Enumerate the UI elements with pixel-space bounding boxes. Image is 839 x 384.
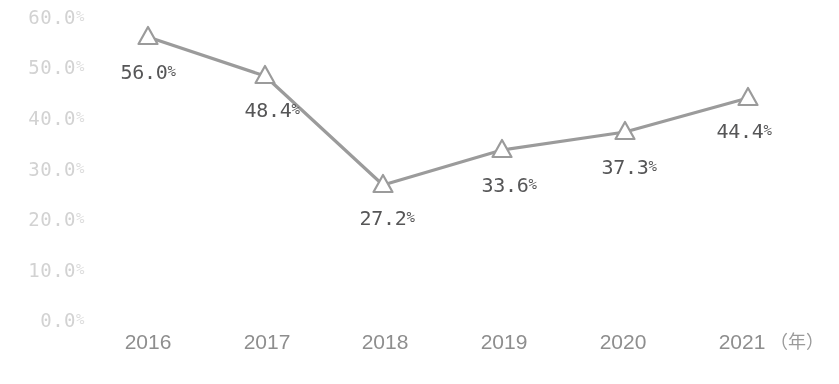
data-marker-2021 <box>739 88 758 105</box>
data-label-2017-value: 48.4 <box>244 98 291 122</box>
data-label-2019-percent: % <box>528 176 536 192</box>
plot-area <box>0 0 839 384</box>
data-label-2016: 56.0% <box>120 62 175 82</box>
data-label-2018: 27.2% <box>359 208 414 228</box>
data-label-2021: 44.4% <box>716 121 771 141</box>
x-tick-2020: 2020 <box>563 331 683 352</box>
data-marker-2016 <box>139 27 158 44</box>
x-tick-2017: 2017 <box>207 331 327 352</box>
data-label-2017: 48.4% <box>244 100 299 120</box>
data-label-2016-value: 56.0 <box>120 60 167 84</box>
x-axis-unit-label: （年） <box>770 333 824 351</box>
x-tick-2019: 2019 <box>444 331 564 352</box>
data-label-2017-percent: % <box>291 101 299 117</box>
data-label-2018-percent: % <box>406 209 414 225</box>
data-series-line <box>148 37 748 185</box>
data-label-2016-percent: % <box>167 63 175 79</box>
data-label-2020-value: 37.3 <box>601 155 648 179</box>
data-label-2021-value: 44.4 <box>716 119 763 143</box>
x-tick-2016: 2016 <box>88 331 208 352</box>
data-label-2018-value: 27.2 <box>359 206 406 230</box>
data-label-2019-value: 33.6 <box>481 173 528 197</box>
x-tick-2018: 2018 <box>325 331 445 352</box>
data-label-2020: 37.3% <box>601 157 656 177</box>
data-label-2020-percent: % <box>648 158 656 174</box>
line-chart: 60.0% 50.0% 40.0% 30.0% 20.0% 10.0% 0.0%… <box>0 0 839 384</box>
data-label-2021-percent: % <box>763 122 771 138</box>
data-label-2019: 33.6% <box>481 175 536 195</box>
